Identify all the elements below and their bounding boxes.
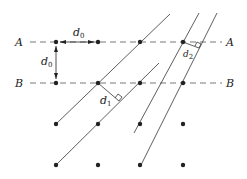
lattice-point: [54, 81, 58, 85]
plane-line-2b: [141, 13, 217, 165]
lattice-point: [181, 81, 185, 85]
lattice-point: [54, 122, 58, 126]
lattice-point: [181, 163, 185, 167]
row-label-b-right: B: [225, 77, 234, 90]
arrowhead-right-icon: [88, 40, 94, 44]
lattice-point: [181, 122, 185, 126]
lattice-point: [181, 40, 185, 44]
lattice-point: [96, 81, 100, 85]
row-label-a-left: A: [14, 36, 23, 49]
d0-horizontal-label: d0: [73, 26, 85, 40]
row-label-a-right: A: [225, 36, 234, 49]
plane-line-2a: [134, 13, 199, 133]
row-label-b-left: B: [14, 77, 23, 90]
d1-label: d1: [100, 94, 112, 108]
lattice-point: [138, 163, 142, 167]
lattice-point: [138, 40, 142, 44]
lattice-point: [138, 122, 142, 126]
lattice-diagram: A A B B d0 d0 d1 d2: [0, 0, 247, 179]
lattice-point: [96, 163, 100, 167]
lattice-point: [138, 81, 142, 85]
plane-line-1b: [56, 63, 159, 165]
d0-vertical-label: d0: [41, 55, 53, 69]
d2-label: d2: [183, 49, 193, 61]
arrowhead-left-icon: [60, 40, 66, 44]
lattice-point: [96, 122, 100, 126]
lattice-point: [54, 163, 58, 167]
arrowhead-up-icon: [54, 46, 58, 52]
lattice-point: [54, 40, 58, 44]
arrowhead-down-icon: [54, 73, 58, 79]
right-angle-d1-icon: [115, 94, 122, 101]
lattice-point: [96, 40, 100, 44]
